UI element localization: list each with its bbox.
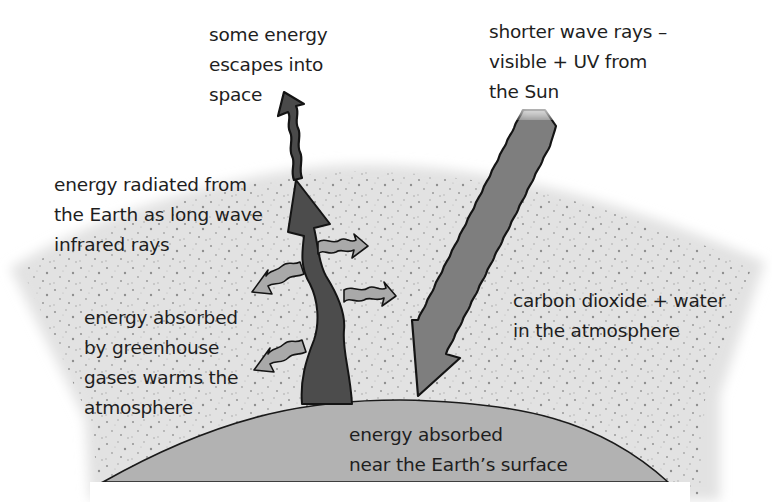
label-surface-absorption: energy absorbed near the Earth’s surface <box>349 420 568 480</box>
label-sun-rays: shorter wave rays – visible + UV from th… <box>489 17 667 107</box>
label-absorbed-by-gases: energy absorbed by greenhouse gases warm… <box>84 303 238 423</box>
label-escaping-energy: some energy escapes into space <box>209 20 328 110</box>
label-radiated-infrared: energy radiated from the Earth as long w… <box>54 170 263 260</box>
label-greenhouse-gases: carbon dioxide + water in the atmosphere <box>513 286 725 346</box>
